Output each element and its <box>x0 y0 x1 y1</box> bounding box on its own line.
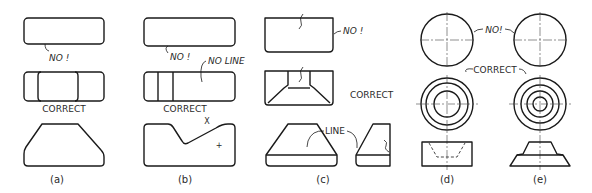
panel-c-line-leader-left <box>307 131 324 147</box>
panel-b-center-mark: + <box>216 141 223 150</box>
panel-b-x-marker: X <box>204 117 210 126</box>
de-no-leader-right <box>505 29 514 33</box>
panel-c-top-rect <box>265 18 333 52</box>
panel-c-no-leader <box>334 31 341 34</box>
de-correct-leader-right <box>519 69 526 74</box>
panel-c-middle-left-edge <box>268 71 288 103</box>
panel-c-top-break-mark <box>299 14 303 29</box>
de-no-label: NO! <box>485 25 502 35</box>
drafting-diagram: NO ! CORRECT (a) NO ! NO LINE CORRECT X … <box>0 0 592 193</box>
panel-a-tangent-right <box>75 72 78 101</box>
panel-c-middle-right-edge <box>310 71 330 103</box>
panel-c-caption: (c) <box>316 174 329 185</box>
panel-b: NO ! NO LINE CORRECT X + (b) <box>144 18 245 185</box>
panel-a-top-rect <box>24 18 104 44</box>
panel-a-correct-label: CORRECT <box>42 104 86 114</box>
panel-b-noline-label: NO LINE <box>208 56 245 66</box>
panel-c-bottom-right-shape <box>356 124 390 166</box>
panel-b-correct-label: CORRECT <box>163 104 207 114</box>
panel-a-bottom-shape <box>24 124 104 166</box>
panel-c-middle-break-mark <box>299 67 303 82</box>
panel-b-caption: (b) <box>178 174 192 185</box>
panel-a: NO ! CORRECT (a) <box>24 18 104 185</box>
panel-c-line-label: LINE <box>325 126 345 136</box>
panel-b-no-leader <box>166 46 168 53</box>
panel-a-no-leader <box>45 44 49 51</box>
panel-b-no-label: NO ! <box>170 52 190 62</box>
panel-c-line-leader-right <box>347 131 357 148</box>
panel-e-top-centerlines <box>513 12 569 68</box>
de-correct-label: CORRECT <box>473 65 517 75</box>
panel-c-no-label: NO ! <box>343 26 363 36</box>
panel-b-top-rect <box>144 18 235 46</box>
panel-d-caption: (d) <box>440 174 454 185</box>
panel-e: (e) <box>509 12 571 185</box>
panel-c-correct-label: CORRECT <box>350 90 394 100</box>
panel-a-no-label: NO ! <box>49 53 69 63</box>
panel-d-top-centerlines <box>420 12 476 68</box>
panel-d: (d) <box>416 12 478 185</box>
panel-c: NO ! CORRECT LINE (c) <box>265 14 394 185</box>
panel-a-tangent-left <box>38 72 41 101</box>
de-shared-labels: NO! CORRECT <box>466 25 526 75</box>
panel-c-right-break-mark <box>384 140 389 152</box>
panel-a-middle-rect <box>24 72 104 101</box>
de-correct-leader-left <box>466 69 473 72</box>
panel-a-caption: (a) <box>50 174 64 185</box>
panel-e-caption: (e) <box>533 174 547 185</box>
de-no-leader-left <box>474 29 483 32</box>
